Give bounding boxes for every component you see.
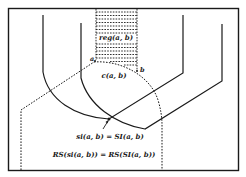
diagram: reg(a, b) a b c(a, b) si(a, b) = SI(a, b… bbox=[0, 0, 246, 177]
label-curve: c(a, b) bbox=[101, 71, 126, 80]
label-equation-2: RS(si(a, b)) = RS(SI(a, b)) bbox=[52, 150, 156, 159]
arrowhead-icon bbox=[106, 120, 110, 124]
label-point-a: a bbox=[90, 55, 94, 63]
label-region: reg(a, b) bbox=[99, 33, 133, 42]
point-b-marker bbox=[136, 70, 138, 72]
point-a-marker bbox=[94, 60, 96, 62]
intersection-point bbox=[108, 118, 111, 121]
label-point-b: b bbox=[140, 66, 145, 74]
label-equation-1: si(a, b) = SI(a, b) bbox=[76, 132, 144, 141]
solid-curve-outer bbox=[43, 15, 183, 119]
